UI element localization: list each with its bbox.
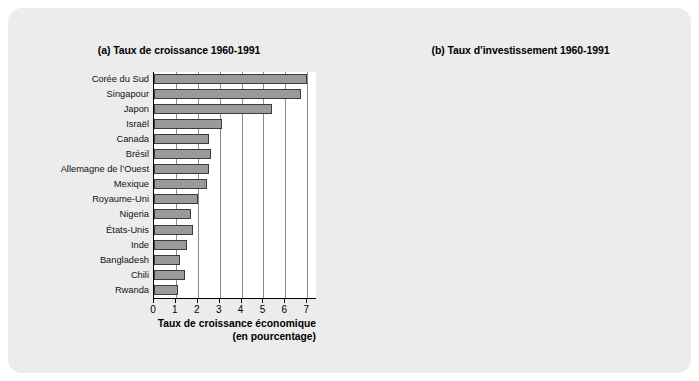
bar bbox=[154, 89, 301, 99]
bar bbox=[154, 194, 198, 204]
x-axis-title-a-main: Taux de croissance économique bbox=[86, 317, 316, 330]
plot-area-a bbox=[153, 72, 316, 299]
bar bbox=[154, 104, 272, 114]
category-label: Mexique bbox=[114, 179, 149, 189]
category-label: Nigeria bbox=[120, 209, 149, 219]
bar bbox=[154, 270, 185, 280]
bar bbox=[154, 149, 211, 159]
bar bbox=[154, 240, 187, 250]
x-tick bbox=[306, 299, 307, 303]
gridline bbox=[307, 72, 308, 298]
category-label: Allemagne de l’Ouest bbox=[61, 164, 149, 174]
bar bbox=[154, 179, 207, 189]
x-tick bbox=[284, 299, 285, 303]
x-tick bbox=[241, 299, 242, 303]
bar bbox=[154, 164, 209, 174]
category-label: Brésil bbox=[126, 149, 149, 159]
chart-title-a: (a) Taux de croissance 1960-1991 bbox=[8, 44, 350, 56]
x-tick bbox=[153, 299, 154, 303]
figure-panel: (a) Taux de croissance 1960-1991 Corée d… bbox=[8, 8, 691, 373]
x-tick bbox=[175, 299, 176, 303]
x-tick-label: 7 bbox=[291, 304, 321, 316]
bar bbox=[154, 285, 178, 295]
category-label: Rwanda bbox=[115, 285, 149, 295]
x-tick bbox=[219, 299, 220, 303]
category-label: Royaume-Uni bbox=[92, 194, 149, 204]
x-tick bbox=[262, 299, 263, 303]
category-label: États-Unis bbox=[106, 225, 149, 235]
chart-panel-growth-rate: (a) Taux de croissance 1960-1991 Corée d… bbox=[8, 8, 350, 373]
category-label: Bangladesh bbox=[100, 255, 149, 265]
gridline bbox=[285, 72, 286, 298]
x-axis-title-a-sub: (en pourcentage) bbox=[86, 330, 316, 343]
chart-panel-investment-rate: (b) Taux d’investissement 1960-1991 Coré… bbox=[350, 8, 691, 373]
bar bbox=[154, 119, 222, 129]
x-tick bbox=[197, 299, 198, 303]
category-label: Japon bbox=[124, 104, 149, 114]
category-label: Israël bbox=[126, 119, 149, 129]
bar bbox=[154, 74, 307, 84]
bar bbox=[154, 134, 209, 144]
chart-title-b: (b) Taux d’investissement 1960-1991 bbox=[350, 44, 691, 56]
x-axis-title-a: Taux de croissance économique (en pource… bbox=[86, 317, 316, 343]
bar bbox=[154, 255, 180, 265]
category-label: Singapour bbox=[107, 89, 149, 99]
bar bbox=[154, 209, 191, 219]
category-label: Corée du Sud bbox=[92, 74, 149, 84]
bar bbox=[154, 225, 193, 235]
category-label: Inde bbox=[131, 240, 149, 250]
category-label: Canada bbox=[116, 134, 149, 144]
category-label: Chili bbox=[131, 270, 149, 280]
